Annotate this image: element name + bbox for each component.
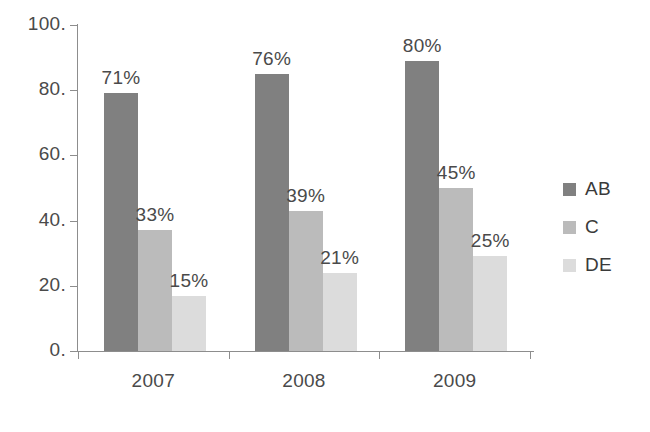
bar-value-label: 25% xyxy=(461,230,519,252)
y-tick-label: 80. xyxy=(6,78,66,100)
y-tick-mark xyxy=(70,351,78,352)
legend-swatch-icon xyxy=(563,259,576,272)
legend: ABCDE xyxy=(563,170,612,284)
y-tick-label: 20. xyxy=(6,274,66,296)
bar-ab-2008[interactable] xyxy=(255,74,289,351)
bar-value-label: 76% xyxy=(243,48,301,70)
x-tick-mark xyxy=(379,351,380,359)
legend-label: C xyxy=(585,216,599,238)
x-tick-mark xyxy=(78,351,79,359)
y-tick-label: 40. xyxy=(6,209,66,231)
y-tick-mark xyxy=(70,286,78,287)
x-tick-mark xyxy=(229,351,230,359)
x-tick-mark xyxy=(530,351,531,359)
legend-label: DE xyxy=(585,254,612,276)
legend-item-de[interactable]: DE xyxy=(563,246,612,284)
y-tick-mark xyxy=(70,155,78,156)
plot-area: 71%33%15%76%39%21%80%45%25% xyxy=(78,25,530,351)
bar-de-2009[interactable] xyxy=(473,256,507,351)
y-tick-label: 60. xyxy=(6,143,66,165)
bar-de-2007[interactable] xyxy=(172,296,206,351)
x-tick-label-2008: 2008 xyxy=(244,370,364,392)
bar-value-label: 45% xyxy=(427,162,485,184)
legend-label: AB xyxy=(585,178,611,200)
y-tick-label: 0. xyxy=(6,339,66,361)
legend-item-c[interactable]: C xyxy=(563,208,612,246)
legend-swatch-icon xyxy=(563,183,576,196)
y-tick-mark xyxy=(70,90,78,91)
x-tick-label-2007: 2007 xyxy=(93,370,213,392)
legend-swatch-icon xyxy=(563,221,576,234)
bar-c-2009[interactable] xyxy=(439,188,473,351)
x-tick-label-2009: 2009 xyxy=(395,370,515,392)
bar-value-label: 15% xyxy=(160,270,218,292)
bar-value-label: 21% xyxy=(311,247,369,269)
bar-value-label: 71% xyxy=(92,67,150,89)
bar-c-2008[interactable] xyxy=(289,211,323,351)
bar-chart: 0.20.40.60.80.100. 71%33%15%76%39%21%80%… xyxy=(0,0,650,432)
bar-ab-2009[interactable] xyxy=(405,61,439,351)
bar-value-label: 33% xyxy=(126,204,184,226)
x-axis-line xyxy=(77,351,534,352)
bar-de-2008[interactable] xyxy=(323,273,357,351)
bar-value-label: 80% xyxy=(393,35,451,57)
legend-item-ab[interactable]: AB xyxy=(563,170,612,208)
y-tick-label: 100. xyxy=(6,13,66,35)
y-tick-mark xyxy=(70,221,78,222)
y-tick-mark xyxy=(70,25,78,26)
bar-value-label: 39% xyxy=(277,185,335,207)
